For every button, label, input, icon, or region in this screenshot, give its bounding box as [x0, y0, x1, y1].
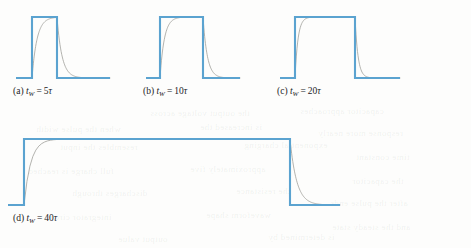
capacitor-voltage-curve-c: [295, 17, 400, 78]
panel-caption-a: (a) tW=5τ: [13, 86, 52, 98]
input-pulse-b: [146, 17, 240, 78]
panel-d: [8, 139, 340, 205]
capacitor-voltage-curve-d: [24, 139, 340, 205]
input-pulse-c: [280, 17, 400, 78]
panel-c: [280, 17, 400, 78]
caption-equals: =: [165, 86, 174, 96]
caption-equals: =: [34, 86, 43, 96]
caption-tag: (b): [143, 86, 154, 96]
caption-value: 40: [44, 213, 54, 223]
waveform-canvas: [0, 0, 471, 248]
caption-value: 10: [174, 86, 184, 96]
input-pulse-d: [8, 139, 340, 205]
caption-tag: (c): [277, 86, 288, 96]
caption-unit-tau: τ: [54, 213, 57, 223]
panel-caption-b: (b) tW=10τ: [143, 86, 187, 98]
panel-b: [146, 17, 240, 78]
capacitor-voltage-curve-a: [32, 17, 110, 78]
panel-a: [16, 17, 110, 78]
panel-caption-c: (c) tW=20τ: [277, 86, 321, 98]
input-pulse-a: [16, 17, 110, 78]
caption-equals: =: [35, 213, 44, 223]
caption-tag: (a): [13, 86, 24, 96]
caption-unit-tau: τ: [317, 86, 320, 96]
caption-value: 20: [308, 86, 318, 96]
caption-unit-tau: τ: [184, 86, 187, 96]
capacitor-voltage-curve-b: [160, 17, 240, 78]
caption-unit-tau: τ: [49, 86, 52, 96]
caption-equals: =: [298, 86, 307, 96]
panel-caption-d: (d) tW=40τ: [13, 213, 57, 225]
figure-rc-pulse-response: the output voltage acrosscapacitor appro…: [0, 0, 471, 248]
caption-tag: (d): [13, 213, 24, 223]
